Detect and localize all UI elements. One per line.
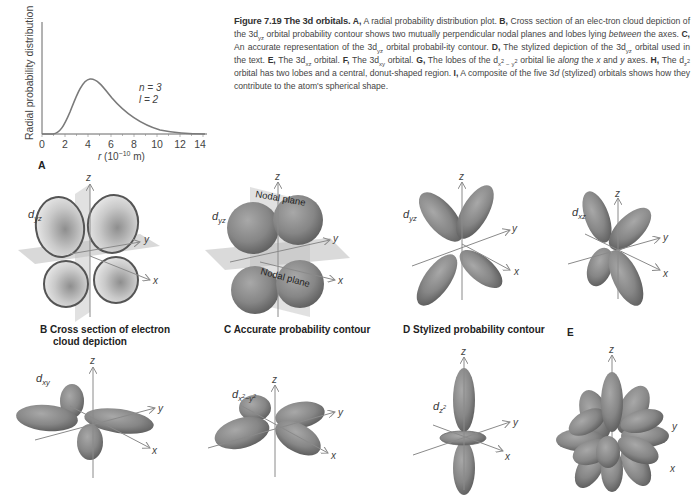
y-label: y — [157, 403, 164, 414]
caption-text: Cross section of an elec- — [510, 16, 605, 26]
caption-em: along — [558, 55, 579, 65]
caption-key: A, — [353, 16, 362, 26]
x-tick-labels: 0 2 4 6 8 10 12 14 — [39, 138, 206, 150]
caption-em: between — [609, 29, 642, 39]
svg-text:0: 0 — [39, 138, 45, 150]
caption-text: A radial probability distribution plot. — [363, 16, 499, 26]
z-label: z — [85, 172, 91, 183]
panel-i-composite: z y x — [550, 340, 698, 495]
panel-b-cross-section: z y x dyz B Cross section of electron cl… — [10, 172, 200, 347]
z-label: z — [458, 172, 464, 182]
y-label: y — [671, 421, 678, 432]
caption-key: E, — [268, 55, 276, 65]
panel-e-dxz: z y x dxz E — [550, 172, 698, 342]
lobe — [94, 257, 138, 303]
dyz-stylized-diagram: z y x dyz — [395, 172, 555, 322]
l-label: l = 2 — [139, 94, 159, 105]
panel-a-radial-chart: Radial probability distribution 0 2 4 6 … — [0, 0, 225, 175]
panel-label-b-line2: cloud depiction — [53, 336, 127, 348]
dz2-diagram: z y x dz2 — [395, 340, 555, 495]
x-label: x — [662, 268, 669, 279]
caption-text: An accurate representation of the 3d — [234, 42, 377, 52]
caption-text: the axes. — [641, 29, 681, 39]
figure-title: The 3d orbitals. — [284, 15, 350, 26]
caption-key: B, — [499, 16, 508, 26]
caption-text: orbital. — [311, 55, 342, 65]
caption-text: lobes and a central, donut-shaped region… — [292, 68, 454, 78]
z-label: z — [274, 172, 280, 182]
caption-text: ity contour. — [446, 42, 492, 52]
z-label: z — [608, 344, 614, 355]
caption-text: planes and lobes lying — [521, 29, 609, 39]
y-axis-label: Radial probability distribution — [23, 6, 35, 140]
y-label: y — [662, 232, 669, 243]
z-label: z — [89, 355, 95, 366]
panel-label-a: A — [38, 159, 46, 171]
caption-sub: − y — [504, 61, 515, 67]
y-label: y — [337, 407, 344, 418]
x-label: x — [152, 275, 159, 286]
caption-key: G, — [416, 55, 425, 65]
y-label: y — [512, 417, 519, 428]
lobe — [44, 261, 88, 307]
caption-text: The stylized depiction of the 3d — [503, 42, 625, 52]
dxz-diagram: z y x dxz — [550, 172, 698, 322]
lobe — [77, 424, 103, 460]
panel-d-stylized-contour: z y x dyz D Stylized probability contour — [395, 172, 555, 342]
dx2-y2-diagram: z y x dx2−y2 — [200, 350, 395, 490]
x-label: x — [504, 451, 511, 462]
radial-probability-chart: Radial probability distribution 0 2 4 6 … — [0, 0, 225, 175]
svg-text:2: 2 — [62, 138, 68, 150]
z-label: z — [271, 374, 277, 385]
x-label: x — [330, 450, 337, 461]
caption-text: A composite of the five 3 — [460, 68, 554, 78]
caption-key: D, — [492, 42, 501, 52]
caption-text: The 3d — [278, 55, 305, 65]
caption-text: orbital. — [385, 55, 416, 65]
caption-text: orbital lie — [518, 55, 558, 65]
z-label: z — [614, 188, 620, 199]
x-axis-label: r (10−10 m) — [98, 150, 145, 162]
x-label: x — [151, 445, 158, 456]
x-label: x — [669, 463, 676, 474]
caption-text: The — [352, 55, 367, 65]
y-label: y — [143, 234, 150, 245]
caption-text: and — [600, 55, 620, 65]
caption-key: C, — [681, 29, 690, 39]
orbital-label: dz2 — [433, 400, 446, 415]
figure-caption: Figure 7.19 The 3d orbitals. A, A radial… — [234, 14, 690, 94]
svg-text:6: 6 — [108, 138, 114, 150]
panel-f-dxy: z y x dxy — [10, 350, 200, 490]
panel-label-e: E — [567, 327, 574, 339]
orbital-label: dxy — [36, 372, 51, 387]
panel-label-b: B Cross section of electron — [40, 324, 170, 336]
x-label: x — [337, 275, 344, 286]
caption-text: The d — [662, 55, 684, 65]
x-label: x — [513, 266, 520, 277]
dxy-diagram: z y x dxy — [10, 350, 200, 490]
dyz-cross-section-diagram: z y x dyz — [10, 172, 200, 322]
y-label: y — [332, 233, 339, 244]
caption-text: orbital has two — [234, 68, 290, 78]
orbital-label: dyz — [403, 208, 417, 223]
svg-text:8: 8 — [131, 138, 137, 150]
caption-text: the — [579, 55, 596, 65]
caption-key: H, — [650, 55, 659, 65]
caption-text: (stylized) orbitals shows how — [559, 68, 671, 78]
svg-text:12: 12 — [174, 138, 186, 150]
caption-text: axes. — [625, 55, 651, 65]
radial-curve — [42, 79, 205, 134]
caption-key: I, — [454, 68, 459, 78]
svg-text:10: 10 — [151, 138, 163, 150]
svg-text:14: 14 — [194, 138, 206, 150]
caption-key: F, — [343, 55, 350, 65]
caption-sup: 2 — [687, 58, 690, 64]
figure-number: Figure 7.19 — [234, 15, 281, 26]
caption-text: 3d — [369, 55, 379, 65]
svg-text:4: 4 — [85, 138, 91, 150]
n-label: n = 3 — [139, 82, 162, 93]
orbital-label: dyz — [212, 210, 226, 225]
panel-c-accurate-contour: z y x Nodal plane Nodal plane dyz C Accu… — [200, 172, 400, 342]
panel-label-c: C Accurate probability contour — [224, 324, 370, 336]
panel-h-dz2: z y x dz2 — [395, 340, 555, 495]
